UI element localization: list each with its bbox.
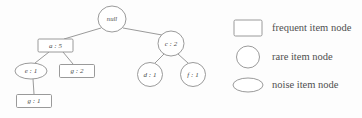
tree-node-g2[interactable]: g : 2 (60, 65, 95, 78)
tree-node-f1[interactable]: f : 1 (181, 63, 206, 87)
node-label-root: null (107, 15, 117, 22)
node-label-g1: g : 1 (28, 97, 41, 105)
legend-label-1: rare item node (272, 51, 333, 62)
figure-canvas: nulla : 5c : 2e : 1g : 2d : 1f : 1g : 1 … (0, 0, 362, 118)
legend-label-2: noise item node (272, 79, 339, 90)
legend-swatch-circle (237, 46, 260, 68)
legend: frequent item noderare item nodenoise it… (233, 20, 352, 92)
legend-swatch-ellipse (233, 78, 263, 92)
legend-item-2: noise item node (233, 78, 339, 92)
tree-node-e1[interactable]: e : 1 (15, 63, 47, 79)
legend-swatch-rectangle (234, 20, 262, 36)
fp-tree-diagram: nulla : 5c : 2e : 1g : 2d : 1f : 1g : 1 … (0, 0, 362, 118)
node-label-g2: g : 2 (71, 67, 84, 75)
node-label-f1: f : 1 (187, 71, 198, 79)
tree-edge-root-c2 (123, 28, 162, 35)
node-label-a5: a : 5 (49, 42, 62, 50)
tree-node-d1[interactable]: d : 1 (138, 63, 163, 87)
legend-label-0: frequent item node (272, 22, 352, 33)
tree-node-a5[interactable]: a : 5 (38, 39, 73, 52)
tree-edge-c2-d1 (155, 54, 164, 63)
tree-edge-e1-g1 (33, 79, 34, 94)
node-label-c2: c : 2 (165, 40, 178, 48)
tree-edge-c2-f1 (178, 54, 188, 63)
tree-edge-root-a5 (64, 28, 101, 39)
tree-node-g1[interactable]: g : 1 (17, 95, 52, 108)
node-label-e1: e : 1 (25, 67, 37, 75)
tree-node-root[interactable]: null (98, 6, 126, 32)
tree-edge-a5-e1 (35, 52, 49, 63)
legend-item-0: frequent item node (234, 20, 352, 36)
legend-item-1: rare item node (237, 46, 333, 68)
node-label-d1: d : 1 (144, 71, 157, 79)
tree-node-c2[interactable]: c : 2 (158, 31, 184, 56)
tree-edge-a5-g2 (63, 52, 73, 64)
